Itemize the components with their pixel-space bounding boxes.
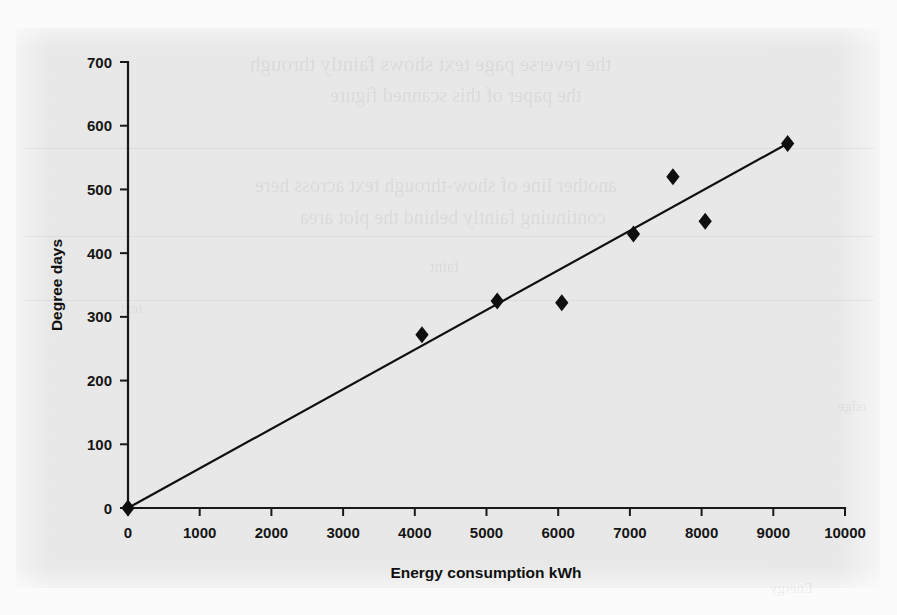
data-point-marker <box>666 168 679 185</box>
x-axis-tick-label: 7000 <box>613 524 646 541</box>
y-axis-tick-label: 0 <box>104 500 112 517</box>
x-axis-tick-label: 4000 <box>398 524 431 541</box>
x-axis-tick-labels: 0100020003000400050006000700080009000100… <box>124 524 866 541</box>
data-point-marker <box>627 226 640 243</box>
y-axis-tick-label: 100 <box>87 436 112 453</box>
y-axis-ticks <box>120 62 128 508</box>
data-point-marker <box>699 213 712 230</box>
data-point-marker <box>781 135 794 152</box>
x-axis-tick-label: 8000 <box>685 524 718 541</box>
y-axis-tick-label: 500 <box>87 181 112 198</box>
data-point-marker <box>121 500 134 517</box>
trendline-layer <box>128 144 788 508</box>
scatter-chart-figure: 0100200300400500600700 01000200030004000… <box>0 0 897 615</box>
y-axis-tick-label: 600 <box>87 117 112 134</box>
x-axis-tick-label: 1000 <box>183 524 216 541</box>
y-axis-tick-label: 400 <box>87 245 112 262</box>
x-axis-tick-label: 10000 <box>824 524 866 541</box>
x-axis-tick-label: 5000 <box>470 524 503 541</box>
data-point-marker <box>415 326 428 343</box>
x-axis-tick-label: 6000 <box>542 524 575 541</box>
y-axis-tick-label: 700 <box>87 54 112 71</box>
y-axis-tick-label: 200 <box>87 372 112 389</box>
x-axis-tick-label: 3000 <box>326 524 359 541</box>
y-axis-tick-labels: 0100200300400500600700 <box>87 54 112 517</box>
trendline <box>128 144 788 508</box>
y-axis-title: Degree days <box>48 239 65 331</box>
x-axis-tick-label: 2000 <box>255 524 288 541</box>
x-axis-tick-label: 0 <box>124 524 132 541</box>
x-axis-title: Energy consumption kWh <box>390 564 581 581</box>
chart-canvas: 0100200300400500600700 01000200030004000… <box>0 0 897 615</box>
x-axis-ticks <box>128 508 845 516</box>
data-point-marker <box>555 294 568 311</box>
y-axis-tick-label: 300 <box>87 308 112 325</box>
x-axis-tick-label: 9000 <box>757 524 790 541</box>
